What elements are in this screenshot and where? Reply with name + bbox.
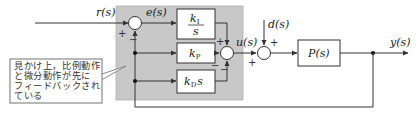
reference-label: r(s): [96, 6, 116, 19]
sum1-plus-sign: +: [118, 28, 126, 39]
sum2-minus-d-sign: −: [220, 64, 228, 75]
sum3-plus-u-sign: +: [248, 57, 256, 68]
sum2-plus-sign: +: [216, 36, 224, 47]
summing-junction-error: [129, 17, 142, 30]
sum2-minus-p-sign: −: [211, 60, 219, 71]
block-diagram: r(s) + − e(s) kI s kP kDs + − − u(s) d(s…: [0, 0, 416, 113]
output-label: y(s): [389, 36, 410, 49]
integral-denominator: s: [193, 25, 199, 38]
branch-point-p: [133, 51, 137, 55]
control-label: u(s): [236, 36, 257, 49]
plant-label: P(s): [307, 47, 330, 60]
callout-line-4: ている: [14, 90, 43, 101]
sum1-minus-sign: −: [129, 34, 137, 45]
sum3-plus-d-sign: +: [270, 37, 278, 48]
summing-junction-disturbance: [258, 47, 271, 60]
summing-junction-control: [221, 47, 234, 60]
error-label: e(s): [146, 6, 167, 19]
branch-point-d: [133, 79, 137, 83]
disturbance-label: d(s): [268, 18, 289, 31]
